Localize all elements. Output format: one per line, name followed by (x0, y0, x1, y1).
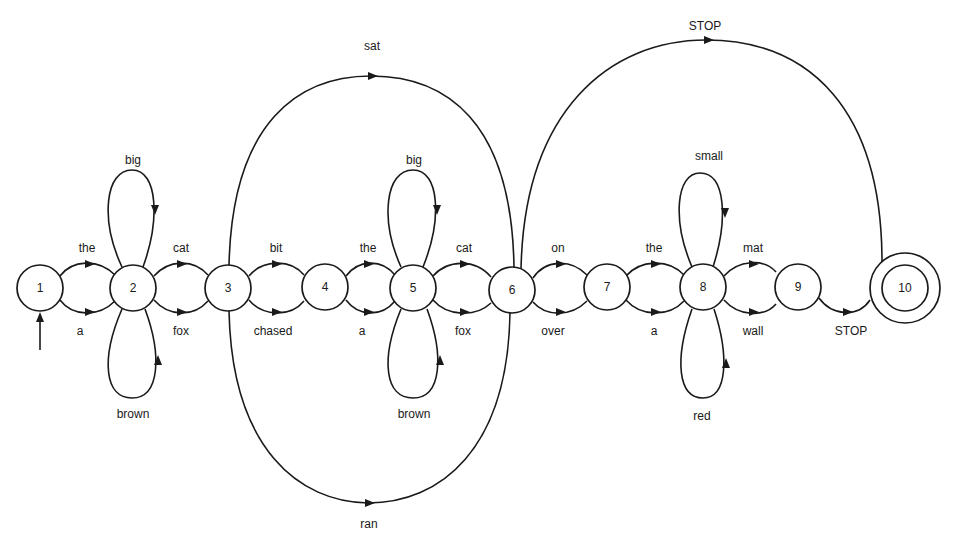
edge-3-6-sat: sat (229, 39, 514, 268)
node-label: 3 (225, 281, 232, 295)
edge-label: big (406, 153, 422, 167)
node-2: 2 (110, 265, 156, 311)
node-3: 3 (205, 265, 251, 311)
edge-5-6-cat: cat (433, 241, 491, 277)
node-label: 5 (410, 281, 417, 295)
edge-9-10-stop: STOP (819, 298, 870, 338)
edge-6-10-stop: STOP (521, 19, 882, 270)
edge-label: a (77, 324, 84, 338)
edge-label: STOP (689, 19, 721, 33)
node-10-final: 10 (870, 253, 940, 323)
edge-8-9-wall: wall (724, 300, 776, 338)
edge-label: red (693, 409, 710, 423)
start-arrow (36, 312, 44, 350)
node-label: 10 (898, 281, 912, 295)
edge-label: brown (117, 407, 150, 421)
loop-5-big: big (388, 153, 441, 267)
edge-label: over (541, 324, 564, 338)
loop-5-brown: brown (388, 309, 444, 421)
edge-1-2-the: the (60, 241, 115, 276)
loop-8-small: small (679, 149, 729, 267)
node-6: 6 (489, 267, 535, 313)
edge-label: STOP (835, 324, 867, 338)
edge-4-5-a: a (346, 300, 395, 338)
edge-5-6-fox: fox (433, 300, 491, 338)
node-8: 8 (680, 264, 726, 310)
node-9: 9 (775, 264, 821, 310)
edge-label: mat (743, 241, 764, 255)
edge-2-3-fox: fox (154, 300, 208, 338)
node-7: 7 (584, 264, 630, 310)
edge-label: cat (173, 241, 190, 255)
edge-label: small (695, 149, 723, 163)
loop-8-red: red (681, 309, 730, 423)
edge-label: fox (173, 324, 189, 338)
edge-1-2-a: a (60, 300, 115, 338)
node-1: 1 (17, 265, 63, 311)
edge-label: the (79, 241, 96, 255)
edge-2-3-cat: cat (154, 241, 208, 276)
edge-3-6-ran: ran (229, 311, 510, 531)
edge-label: the (646, 241, 663, 255)
edge-label: a (651, 324, 658, 338)
node-label: 4 (322, 280, 329, 294)
state-diagram: sat ran STOP the a cat fox bit (0, 0, 958, 544)
edge-6-7-on: on (533, 241, 587, 278)
edge-label: a (359, 324, 366, 338)
loop-2-big: big (108, 153, 159, 267)
edge-3-4-bit: bit (249, 241, 304, 276)
edge-7-8-a: a (626, 300, 684, 338)
edge-label: brown (398, 407, 431, 421)
edge-label: fox (455, 324, 471, 338)
edge-3-4-chased: chased (249, 300, 304, 338)
edge-label: sat (364, 39, 381, 53)
edge-8-9-mat: mat (724, 241, 776, 276)
edge-label: chased (254, 324, 293, 338)
edge-label: ran (360, 517, 377, 531)
node-label: 1 (37, 281, 44, 295)
edge-6-7-over: over (533, 301, 587, 338)
node-label: 7 (604, 280, 611, 294)
node-label: 2 (130, 281, 137, 295)
node-label: 8 (700, 280, 707, 294)
edge-label: cat (456, 241, 473, 255)
edge-4-5-the: the (346, 241, 395, 276)
node-label: 9 (795, 280, 802, 294)
edge-7-8-the: the (626, 241, 684, 276)
edge-label: wall (742, 324, 764, 338)
edge-label: big (125, 153, 141, 167)
edge-label: on (551, 241, 564, 255)
edge-label: bit (270, 241, 283, 255)
node-label: 6 (509, 283, 516, 297)
loop-2-brown: brown (108, 309, 162, 421)
node-5: 5 (390, 265, 436, 311)
edge-label: the (360, 241, 377, 255)
node-4: 4 (302, 264, 348, 310)
